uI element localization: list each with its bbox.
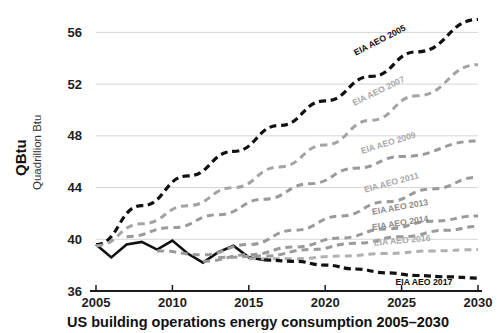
chart-container: 364044485256 200520102015202020252030 EI… <box>0 0 501 333</box>
x-tick-label: 2015 <box>234 295 263 310</box>
y-tick-label: 36 <box>68 284 82 299</box>
y-tick-label: 40 <box>68 232 82 247</box>
chart-title: US building operations energy consumptio… <box>67 314 449 330</box>
series-label-eia-aeo-2017: EIA AEO 2017 <box>396 277 453 287</box>
series-line-eia-aeo-2017 <box>264 260 478 278</box>
series-label-eia-aeo-2005: EIA AEO 2005 <box>352 23 407 58</box>
y-tick-label: 44 <box>68 180 83 195</box>
y-tick-label: 48 <box>68 128 82 143</box>
series-inline-labels: EIA AEO 2005EIA AEO 2007EIA AEO 2009EIA … <box>351 23 453 287</box>
series-label-eia-aeo-2014: EIA AEO 2014 <box>371 213 429 232</box>
x-tick-label: 2010 <box>158 295 187 310</box>
y-axis-title-sub: Quadrillion Btu <box>31 115 43 190</box>
y-axis-title-main: QBtu <box>12 139 29 176</box>
x-axis-tick-labels: 200520102015202020252030 <box>82 295 493 310</box>
x-tick-label: 2025 <box>387 295 416 310</box>
y-tick-label: 52 <box>68 77 82 92</box>
series-line-eia-aeo-2013 <box>203 216 478 261</box>
y-axis-title: QBtu Quadrillion Btu <box>12 115 43 190</box>
x-tick-label: 2030 <box>464 295 493 310</box>
series-label-eia-aeo-2009: EIA AEO 2009 <box>360 130 417 156</box>
series-line-eia-aeo-2011 <box>157 177 478 255</box>
y-tick-label: 56 <box>68 25 82 40</box>
line-chart: 364044485256 200520102015202020252030 EI… <box>0 0 501 333</box>
x-tick-label: 2005 <box>82 295 111 310</box>
series-label-eia-aeo-2016: EIA AEO 2016 <box>373 233 431 248</box>
series-line-historical <box>96 241 264 263</box>
series-line-eia-aeo-2005 <box>96 20 478 245</box>
y-axis-tick-labels: 364044485256 <box>68 25 83 299</box>
series-label-eia-aeo-2011: EIA AEO 2011 <box>363 170 420 194</box>
x-tick-label: 2020 <box>311 295 340 310</box>
series-line-eia-aeo-2014 <box>218 226 478 257</box>
